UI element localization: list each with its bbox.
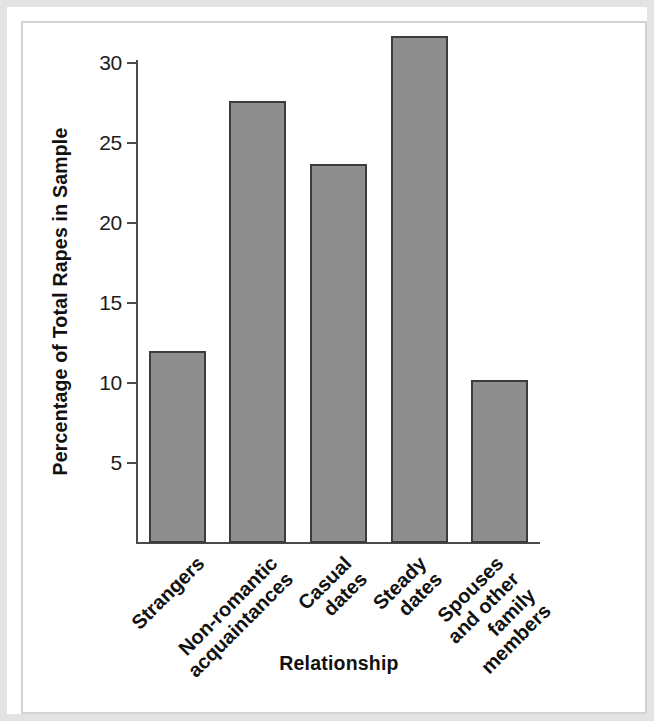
y-axis-tick-label: 5 <box>72 452 122 474</box>
bar <box>471 380 528 543</box>
bar <box>310 164 367 543</box>
y-axis-tick-label: 30 <box>72 52 122 74</box>
y-axis-tick-label-text: 25 <box>76 132 122 153</box>
y-axis-tick <box>127 462 137 464</box>
y-axis-tick <box>127 142 137 144</box>
y-axis-tick-label: 10 <box>72 372 122 394</box>
y-axis-tick-label-text: 15 <box>76 292 122 313</box>
y-axis-tick-label: 20 <box>72 212 122 234</box>
bar <box>391 36 448 543</box>
y-axis-title: Percentage of Total Rapes in Sample <box>49 92 72 512</box>
x-axis-title: Relationship <box>137 652 541 675</box>
y-axis-tick <box>127 302 137 304</box>
bar <box>229 101 286 543</box>
y-axis-tick-label: 15 <box>72 292 122 314</box>
y-axis-tick-label-text: 30 <box>76 52 122 73</box>
y-axis-tick <box>127 222 137 224</box>
bar <box>149 351 206 543</box>
bar-chart: 51015202530 Percentage of Total Rapes in… <box>0 0 654 721</box>
y-axis-tick-label: 25 <box>72 132 122 154</box>
y-axis-tick-label-text: 20 <box>76 212 122 233</box>
y-axis-tick-label-text: 10 <box>76 372 122 393</box>
y-axis-tick <box>127 382 137 384</box>
y-axis-tick <box>127 62 137 64</box>
y-axis-tick-label-text: 5 <box>76 452 122 473</box>
